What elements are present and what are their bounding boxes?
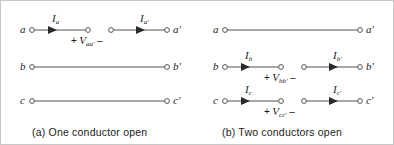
terminal-node-break-right [302, 99, 307, 104]
terminal-label-a-prime: a' [366, 24, 374, 35]
current-direction-arrowhead [241, 63, 250, 71]
current-label-Ia: Ia [52, 13, 59, 24]
polarity-minus-sign: – [97, 35, 103, 46]
terminal-label-c-prime: c' [173, 95, 180, 106]
terminal-node-break-left [279, 65, 284, 70]
terminal-label-a: a [20, 24, 26, 35]
terminal-node-c [223, 99, 228, 104]
current-direction-arrowhead [329, 63, 338, 71]
panel-a-circuit-graphics [1, 1, 198, 145]
terminal-label-a-prime: a' [173, 24, 181, 35]
voltage-subscript: bb' [279, 77, 288, 85]
current-subscript: c' [337, 89, 342, 97]
terminal-node-c-prime [165, 99, 170, 104]
current-direction-arrowhead [136, 26, 145, 34]
panel-one-conductor-open: a a' b b' c c' Ia Ia' + Vaa' – (a) One c… [1, 1, 198, 145]
terminal-node-b [30, 65, 35, 70]
current-subscript: a' [144, 18, 149, 26]
terminal-node-c-prime [358, 99, 363, 104]
terminal-label-c-prime: c' [366, 95, 373, 106]
polarity-plus-sign: + [264, 106, 270, 117]
current-label-Ic: Ic [245, 84, 252, 95]
figure-container: a a' b b' c c' Ia Ia' + Vaa' – (a) One c… [0, 0, 394, 145]
voltage-subscript: cc' [279, 111, 287, 119]
current-subscript: b [249, 55, 253, 63]
terminal-label-a: a [213, 24, 219, 35]
terminal-node-a [30, 28, 35, 33]
terminal-label-b-prime: b' [366, 61, 374, 72]
panel-caption-a: (a) One conductor open [32, 127, 147, 138]
terminal-node-break-right [302, 65, 307, 70]
polarity-minus-sign: – [289, 106, 295, 117]
terminal-label-b: b [20, 61, 26, 72]
current-direction-arrowhead [241, 97, 250, 105]
current-label-Ib-prime: Ib' [333, 50, 342, 61]
terminal-label-c: c [213, 95, 218, 106]
current-label-Ia-prime: Ia' [140, 13, 149, 24]
terminal-node-b [223, 65, 228, 70]
terminal-node-break-left [86, 28, 91, 33]
voltage-label-Vcc-prime: + Vcc' – [264, 106, 295, 117]
terminal-label-b: b [213, 61, 219, 72]
panel-caption-b: (b) Two conductors open [222, 127, 342, 138]
terminal-label-b-prime: b' [173, 61, 181, 72]
current-label-Ic-prime: Ic' [333, 84, 341, 95]
terminal-node-b-prime [165, 65, 170, 70]
polarity-plus-sign: + [71, 35, 77, 46]
terminal-node-a-prime [358, 28, 363, 33]
terminal-node-b-prime [358, 65, 363, 70]
terminal-node-break-left [279, 99, 284, 104]
panel-b-circuit-graphics [198, 1, 394, 145]
polarity-plus-sign: + [264, 72, 270, 83]
current-subscript: c [249, 89, 252, 97]
current-direction-arrowhead [48, 26, 57, 34]
voltage-label-Vbb-prime: + Vbb' – [264, 72, 296, 83]
polarity-minus-sign: – [290, 72, 296, 83]
terminal-node-a-prime [165, 28, 170, 33]
current-subscript: b' [337, 55, 342, 63]
current-label-Ib: Ib [245, 50, 252, 61]
current-direction-arrowhead [329, 97, 338, 105]
terminal-node-c [30, 99, 35, 104]
voltage-subscript: aa' [86, 40, 95, 48]
terminal-node-break-right [109, 28, 114, 33]
terminal-node-a [223, 28, 228, 33]
panel-two-conductors-open: a a' b b' c c' Ib Ib' + Vbb' – Ic Ic' + [198, 1, 394, 145]
terminal-label-c: c [20, 95, 25, 106]
voltage-label-Vaa-prime: + Vaa' – [71, 35, 103, 46]
current-subscript: a [56, 18, 60, 26]
